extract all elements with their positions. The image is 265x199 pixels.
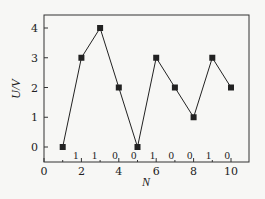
data-point-marker — [97, 25, 103, 31]
x-tick-label: 4 — [115, 165, 122, 178]
x-tick-label: 8 — [190, 165, 197, 178]
data-point-marker — [153, 55, 159, 61]
bit-label: 0 — [112, 149, 118, 161]
data-point-marker — [228, 85, 234, 91]
bit-label: 0 — [225, 149, 231, 161]
x-tick-label: 2 — [78, 165, 85, 178]
bit-label: 1 — [92, 149, 98, 161]
bit-label: 0 — [168, 149, 174, 161]
data-point-marker — [191, 114, 197, 120]
y-axis: 01234 — [31, 22, 48, 154]
y-axis-title: U/V — [9, 78, 23, 99]
bit-label: 1 — [150, 149, 156, 161]
bit-label: 0 — [187, 149, 193, 161]
x-axis-title: N — [141, 175, 151, 189]
x-tick-label: 10 — [224, 165, 238, 178]
data-series — [60, 25, 234, 150]
series-line — [63, 28, 231, 147]
bit-label: 0 — [131, 149, 137, 161]
bit-label: 1 — [73, 149, 79, 161]
data-point-marker — [78, 55, 84, 61]
y-tick-label: 4 — [31, 22, 38, 35]
data-point-marker — [60, 144, 66, 150]
y-tick-label: 0 — [31, 141, 38, 154]
x-tick-label: 6 — [153, 165, 160, 178]
bit-label: 1 — [206, 149, 212, 161]
y-tick-label: 3 — [31, 52, 38, 65]
data-point-marker — [209, 55, 215, 61]
data-point-marker — [172, 85, 178, 91]
bit-annotations: 110010010 — [73, 149, 230, 161]
y-tick-label: 1 — [31, 111, 38, 124]
x-axis: 0246810 — [41, 158, 239, 178]
y-tick-label: 2 — [31, 82, 38, 95]
x-tick-label: 0 — [41, 165, 48, 178]
data-point-marker — [116, 85, 122, 91]
line-chart: 01234 0246810 110010010 N U/V — [0, 0, 265, 199]
